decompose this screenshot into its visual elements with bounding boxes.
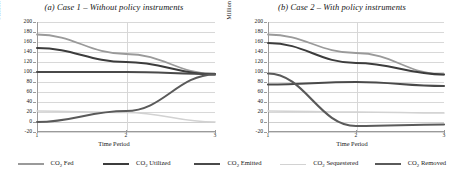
- x-tick-mark: [215, 130, 216, 133]
- legend-label: CO2 Utilized: [136, 159, 170, 168]
- y-tick-label: 180: [24, 29, 32, 35]
- y-tick-mark: [33, 82, 36, 83]
- legend-item[interactable]: CO2 Emitted: [182, 159, 273, 168]
- series-line: [37, 75, 215, 123]
- panel-b-title: (b) Case 2 – With policy instruments: [228, 2, 456, 12]
- x-tick-label: 2: [355, 133, 358, 139]
- legend-item[interactable]: CO2 Utilized: [91, 159, 182, 168]
- y-tick-mark: [264, 112, 267, 113]
- series-line: [268, 35, 444, 75]
- panel-a-plot-area: [37, 22, 215, 132]
- panel-a-y-ticks: 200180160140120100806040200-20: [0, 22, 36, 132]
- y-tick-mark: [33, 42, 36, 43]
- y-tick-label: 120: [24, 59, 32, 65]
- y-axis-title-text: Million tons of CO: [225, 0, 232, 20]
- legend-item[interactable]: CO2 Removed: [365, 159, 456, 168]
- y-tick-mark: [264, 92, 267, 93]
- legend-item[interactable]: CO2 Fed: [0, 159, 91, 168]
- y-tick-mark: [33, 52, 36, 53]
- series-line: [37, 35, 215, 75]
- x-tick-mark: [444, 130, 445, 133]
- legend-swatch-line-icon: [18, 163, 44, 165]
- y-tick-mark: [33, 32, 36, 33]
- y-tick-mark: [33, 102, 36, 103]
- y-tick-label: 100: [255, 69, 263, 75]
- y-tick-mark: [264, 32, 267, 33]
- y-tick-label: 0: [29, 119, 32, 125]
- y-tick-label: 20: [257, 109, 263, 115]
- y-tick-label: 80: [257, 79, 263, 85]
- x-tick-label: 2: [125, 133, 128, 139]
- y-tick-mark: [264, 22, 267, 23]
- y-tick-label: 80: [26, 79, 32, 85]
- legend-item[interactable]: CO2 Sequestered: [274, 159, 365, 168]
- legend-label: CO2 Fed: [51, 159, 74, 168]
- y-tick-mark: [33, 122, 36, 123]
- panels-container: (a) Case 1 – Without policy instruments …: [0, 0, 456, 150]
- panel-a-title: (a) Case 1 – Without policy instruments: [0, 2, 228, 12]
- panel-b-series-layer: [268, 22, 444, 132]
- legend-label: CO2 Sequestered: [313, 159, 358, 168]
- y-tick-label: 20: [26, 109, 32, 115]
- legend-swatch-line-icon: [375, 163, 401, 165]
- x-tick-mark: [356, 130, 357, 133]
- legend-label: CO2 Removed: [408, 159, 447, 168]
- y-tick-label: 100: [24, 69, 32, 75]
- figure-root: (a) Case 1 – Without policy instruments …: [0, 0, 456, 176]
- y-tick-mark: [264, 82, 267, 83]
- series-line: [268, 111, 444, 113]
- y-tick-mark: [33, 62, 36, 63]
- y-tick-mark: [33, 22, 36, 23]
- y-tick-label: 60: [257, 89, 263, 95]
- y-tick-mark: [33, 112, 36, 113]
- y-tick-label: 120: [255, 59, 263, 65]
- y-tick-label: 160: [255, 39, 263, 45]
- chart-panel-b: (b) Case 2 – With policy instruments Mil…: [228, 0, 456, 150]
- panel-a-x-axis-title: Time Period: [0, 140, 228, 147]
- x-tick-mark: [37, 130, 38, 133]
- panel-b-y-ticks: 200180160140120100806040200-20: [228, 22, 267, 132]
- y-tick-mark: [264, 122, 267, 123]
- y-tick-label: 40: [257, 99, 263, 105]
- x-tick-label: 1: [267, 133, 270, 139]
- chart-panel-a: (a) Case 1 – Without policy instruments …: [0, 0, 228, 150]
- y-axis-title-text: Million tons of CO: [0, 0, 1, 20]
- y-tick-label: 160: [24, 39, 32, 45]
- y-tick-label: -20: [256, 129, 263, 135]
- y-tick-label: 40: [26, 99, 32, 105]
- y-tick-label: 140: [24, 49, 32, 55]
- legend-label: CO2 Emitted: [227, 159, 261, 168]
- x-tick-mark: [126, 130, 127, 133]
- figure-legend: CO2 FedCO2 UtilizedCO2 EmittedCO2 Seques…: [0, 155, 456, 173]
- x-tick-label: 1: [36, 133, 39, 139]
- y-tick-label: 200: [24, 19, 32, 25]
- y-tick-mark: [264, 52, 267, 53]
- legend-swatch-line-icon: [103, 163, 129, 165]
- y-tick-label: 140: [255, 49, 263, 55]
- legend-swatch-line-icon: [280, 164, 306, 165]
- panel-b-x-axis-title: Time Period: [248, 140, 456, 147]
- y-tick-mark: [33, 92, 36, 93]
- y-tick-label: 200: [255, 19, 263, 25]
- y-tick-mark: [33, 72, 36, 73]
- y-tick-mark: [264, 72, 267, 73]
- y-tick-label: 180: [255, 29, 263, 35]
- y-tick-label: 0: [260, 119, 263, 125]
- y-tick-mark: [264, 102, 267, 103]
- x-tick-mark: [268, 130, 269, 133]
- x-tick-label: 3: [443, 133, 446, 139]
- panel-b-plot-area: [268, 22, 444, 132]
- y-tick-mark: [264, 42, 267, 43]
- y-tick-label: -20: [25, 129, 32, 135]
- x-tick-label: 3: [214, 133, 217, 139]
- legend-swatch-line-icon: [194, 163, 220, 165]
- panel-a-series-layer: [37, 22, 215, 132]
- y-tick-mark: [264, 62, 267, 63]
- y-tick-label: 60: [26, 89, 32, 95]
